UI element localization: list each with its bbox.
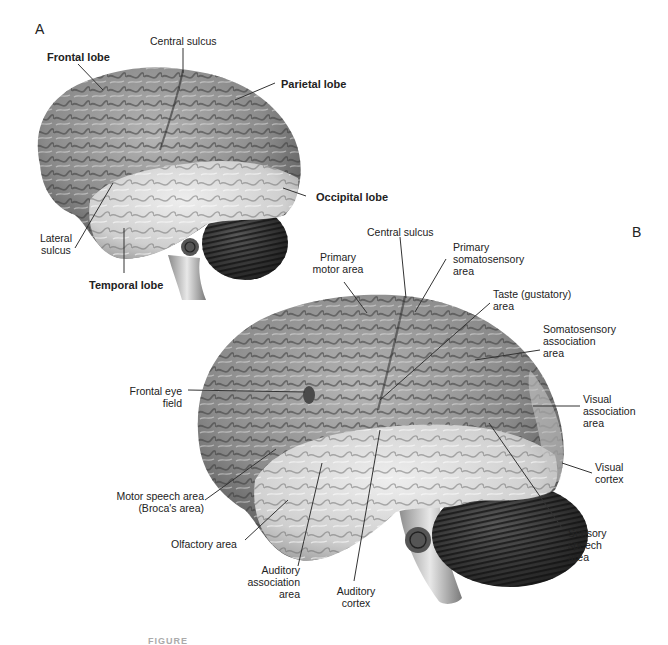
label-motor-speech-area: Motor speech area (Broca's area)	[108, 490, 204, 514]
brain-a	[38, 67, 301, 300]
figure-caption: FIGURE	[148, 636, 188, 645]
label-occipital-lobe: Occipital lobe	[316, 191, 388, 203]
label-lateral-sulcus: Lateral sulcus	[36, 232, 76, 256]
label-sensory-speech-area: Sensory speech area	[568, 527, 607, 563]
panel-label-a: A	[35, 21, 44, 37]
label-visual-association-area: Visual association area	[583, 393, 636, 429]
label-auditory-cortex: Auditory cortex	[331, 585, 381, 609]
label-taste-area: Taste (gustatory) area	[493, 288, 571, 312]
label-central-sulcus-b: Central sulcus	[367, 226, 434, 238]
label-visual-cortex: Visual cortex	[595, 461, 624, 485]
brain-diagram-figure: A B Frontal lobe Central sulcus Parietal…	[0, 0, 668, 645]
label-somatosensory-association-area: Somatosensory association area	[543, 323, 616, 359]
label-auditory-association-area: Auditory association area	[240, 564, 300, 600]
label-frontal-eye-field: Frontal eye field	[120, 385, 182, 409]
label-parietal-lobe: Parietal lobe	[281, 78, 346, 90]
label-olfactory-area: Olfactory area	[171, 538, 237, 550]
panel-label-b: B	[632, 224, 641, 240]
brain-b	[198, 295, 588, 604]
label-central-sulcus-a: Central sulcus	[150, 35, 217, 47]
label-frontal-lobe: Frontal lobe	[47, 51, 110, 63]
label-primary-somatosensory-area: Primary somatosensory area	[453, 241, 524, 277]
label-primary-motor-area: Primary motor area	[303, 251, 373, 275]
label-temporal-lobe: Temporal lobe	[89, 279, 163, 291]
